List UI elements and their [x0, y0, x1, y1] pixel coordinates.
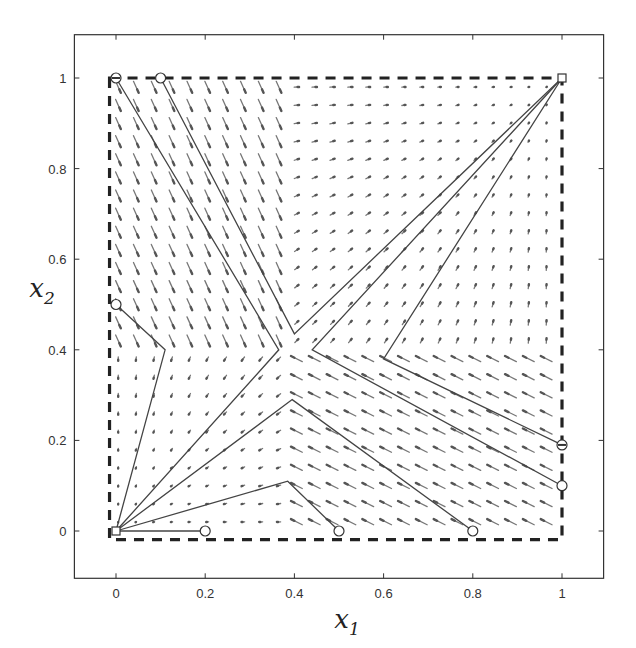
field-arrow-head [244, 252, 246, 255]
field-arrow-head [333, 213, 334, 214]
field-arrow-head [277, 396, 278, 397]
field-arrow-head [387, 212, 388, 213]
field-arrow-head [315, 339, 316, 340]
field-arrow-head [362, 501, 365, 503]
field-arrow-head [291, 410, 294, 412]
field-arrow-head [191, 180, 193, 183]
field-arrow-head [422, 302, 423, 303]
field-arrow-head [369, 339, 370, 340]
field-arrow-head [244, 162, 246, 165]
field-arrow-head [280, 89, 282, 92]
field-arrow-head [262, 325, 264, 328]
field-arrow-head [155, 126, 157, 129]
field-arrow-head [380, 374, 383, 376]
field-arrow-head [380, 429, 383, 431]
field-arrow-head [469, 465, 472, 467]
field-arrow-head [440, 248, 441, 249]
field-arrow-head [505, 374, 508, 376]
field-arrow-head [155, 343, 157, 346]
field-arrow-head [206, 432, 207, 433]
field-arrow-head [242, 450, 243, 451]
field-arrow-head [475, 194, 476, 195]
field-arrow-head [119, 252, 121, 255]
field-arrow-head [226, 162, 228, 165]
field-arrow-head [280, 271, 282, 274]
field-arrow-head [475, 284, 476, 285]
trajectory-line [384, 78, 562, 445]
field-arrow-head [226, 216, 228, 219]
field-arrow-head [224, 360, 225, 361]
field-arrow-head [387, 159, 388, 160]
field-arrow-head [226, 144, 228, 147]
field-arrow-head [191, 144, 193, 147]
field-arrow-head [173, 307, 175, 310]
field-arrow-head [487, 501, 490, 503]
field-arrow-head [416, 483, 419, 485]
field-arrow-head [523, 356, 526, 358]
field-arrow-head [398, 519, 401, 521]
field-arrow-head [155, 162, 157, 165]
field-arrow-head [244, 325, 246, 328]
field-arrow-head [155, 89, 157, 92]
field-arrow-head [351, 177, 352, 178]
field-arrow-head [280, 198, 282, 201]
field-arrow-head [440, 177, 441, 178]
field-arrow-head [404, 284, 405, 285]
field-arrow-head [386, 339, 387, 340]
field-arrow-head [297, 339, 298, 340]
field-arrow-head [440, 159, 441, 160]
field-arrow-head [226, 89, 228, 92]
field-arrow-head [362, 465, 365, 467]
field-arrow-head [440, 230, 441, 231]
field-arrow-head [404, 212, 405, 213]
field-arrow-head [298, 177, 299, 178]
field-arrow-head [291, 465, 294, 467]
field-arrow-head [369, 159, 370, 160]
field-arrow-head [262, 180, 264, 183]
field-arrow-head [262, 234, 264, 237]
field-arrow-head [398, 447, 401, 449]
field-arrow-head [119, 162, 121, 165]
field-arrow-head [155, 252, 157, 255]
field-arrow-head [333, 285, 334, 286]
field-arrow-head [309, 465, 312, 467]
field-arrow-head [280, 343, 282, 346]
field-arrow-head [173, 126, 175, 129]
field-arrow-head [119, 234, 121, 237]
field-arrow-head [362, 447, 365, 449]
field-arrow-head [189, 396, 190, 397]
field-arrow-head [208, 198, 210, 201]
field-arrow-head [523, 392, 526, 394]
field-arrow-head [291, 447, 294, 449]
field-arrow-head [369, 177, 370, 178]
axes-frame [74, 35, 603, 579]
trajectory-line [116, 78, 279, 531]
field-arrow-head [224, 414, 225, 415]
field-arrow-head [173, 162, 175, 165]
field-arrow-head [173, 325, 175, 328]
x-axis-label-subscript: 1 [349, 619, 360, 639]
field-arrow-head [119, 126, 121, 129]
field-arrow-head [280, 107, 282, 110]
field-arrow-head [404, 303, 405, 304]
field-arrow-head [226, 271, 228, 274]
field-arrow-head [119, 325, 121, 328]
field-arrow-head [380, 392, 383, 394]
field-arrow-head [523, 447, 526, 449]
field-arrow-head [541, 501, 544, 503]
field-arrow-head [208, 343, 210, 346]
field-arrow-head [327, 410, 330, 412]
field-arrow-head [262, 144, 264, 147]
field-arrow-head [277, 378, 278, 379]
y-tick-label: 0.6 [48, 252, 66, 267]
field-arrow-head [452, 501, 455, 503]
field-arrow-head [487, 429, 490, 431]
domain-box [110, 78, 562, 540]
field-arrow-head [244, 343, 246, 346]
field-arrow-head [191, 307, 193, 310]
field-arrow-head [475, 159, 476, 160]
field-arrow-head [315, 285, 316, 286]
field-arrow-head [351, 213, 352, 214]
field-arrow-head [137, 289, 139, 292]
field-arrow-head [380, 483, 383, 485]
